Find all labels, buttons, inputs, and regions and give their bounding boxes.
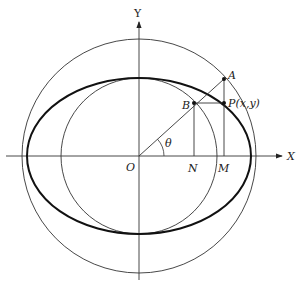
- label-Y: Y: [133, 7, 142, 20]
- label-X: X: [286, 150, 296, 163]
- point-P: [222, 101, 226, 105]
- label-O: O: [126, 161, 135, 174]
- label-N: N: [187, 162, 198, 175]
- label-M: M: [217, 162, 230, 175]
- label-B: B: [181, 99, 190, 112]
- point-A: [222, 77, 226, 81]
- label-theta: θ: [165, 137, 172, 150]
- label-A: A: [227, 69, 236, 82]
- label-P: P(x,y): [227, 97, 260, 110]
- ellipse-diagram: A P(x,y) B N M O X Y θ: [0, 0, 303, 287]
- angle-arc: [158, 139, 165, 156]
- point-B: [192, 101, 196, 105]
